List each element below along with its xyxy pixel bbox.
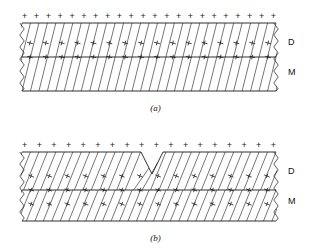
dislocation-symbol: [119, 202, 125, 206]
hatch-line-upper: [134, 168, 149, 190]
plus-icon: +: [110, 141, 115, 150]
hatch-line-lower: [9, 190, 22, 221]
hatch-line-upper: [244, 152, 259, 190]
plus-icon: +: [256, 141, 261, 150]
dislocation-symbol: [192, 174, 198, 178]
dislocation-symbol: [137, 174, 143, 178]
dislocation-symbol: [173, 174, 179, 178]
hatch-line-upper: [83, 152, 98, 190]
panel-b-drawing: [0, 0, 311, 252]
hatch-line-upper: [176, 152, 191, 190]
dislocation-symbol: [246, 202, 252, 206]
plus-icon: +: [271, 141, 276, 150]
hatch-line-upper: [168, 152, 183, 190]
dislocation-symbol: [137, 202, 143, 206]
plus-icon: +: [183, 141, 188, 150]
dislocation-symbol: [83, 174, 89, 178]
panel-b-caption: (b): [0, 233, 311, 243]
plus-icon: +: [22, 141, 27, 150]
hatch-line-upper: [100, 152, 115, 190]
plus-icon: +: [154, 141, 159, 150]
hatch-line-upper: [41, 152, 56, 190]
plus-icon: +: [124, 141, 129, 150]
plus-icon: +: [198, 141, 203, 150]
plus-icon: +: [37, 141, 42, 150]
plus-icon: +: [81, 141, 86, 150]
hatch-line-upper: [252, 152, 267, 190]
dislocation-symbol: [264, 202, 270, 206]
plus-icon: +: [227, 141, 232, 150]
hatch-line-upper: [261, 152, 276, 190]
plus-icon: +: [66, 141, 71, 150]
slab-body: [1, 152, 301, 221]
hatch-line-upper: [74, 152, 89, 190]
hatch-line-upper: [24, 152, 39, 190]
hatch-line-upper: [184, 152, 199, 190]
dislocation-symbol: [210, 174, 216, 178]
hatch-line-upper: [49, 152, 64, 190]
hatch-line-upper: [210, 152, 225, 190]
dislocation-symbol: [46, 174, 52, 178]
panel-b: + + + + + + + + + + + + + + + + + + D M …: [0, 0, 311, 252]
hatch-line-upper: [117, 152, 132, 190]
dislocation-symbol: [192, 202, 198, 206]
plus-icon: +: [212, 141, 217, 150]
hatch-line-upper: [227, 152, 242, 190]
hatch-line-lower: [1, 190, 14, 221]
hatch-line-upper: [91, 152, 106, 190]
hatch-line-upper: [159, 152, 174, 190]
hatch-line-upper: [7, 152, 22, 190]
plus-icon: +: [241, 141, 246, 150]
plus-icon: +: [139, 141, 144, 150]
hatch-line-upper: [57, 152, 72, 190]
panel-b-label-d: D: [288, 167, 295, 176]
dislocation-symbol: [65, 174, 71, 178]
figure-root: + + + + + + + + + + + + + + + + + + + + …: [0, 0, 311, 252]
hatch-line-upper: [235, 152, 250, 190]
hatch-line-upper: [218, 152, 233, 190]
plus-icon: +: [95, 141, 100, 150]
hatch-line-upper: [108, 152, 123, 190]
hatch-line-upper: [193, 152, 208, 190]
hatch-line-upper: [201, 152, 216, 190]
dislocation-symbol: [65, 202, 71, 206]
hatch-line-upper: [32, 152, 47, 190]
plus-icon: +: [51, 141, 56, 150]
hatch-line-upper: [66, 152, 81, 190]
panel-b-plus-row: + + + + + + + + + + + + + + + + + +: [22, 140, 276, 150]
panel-b-label-m: M: [288, 197, 296, 206]
plus-icon: +: [168, 141, 173, 150]
hatch-line-upper: [125, 152, 140, 190]
